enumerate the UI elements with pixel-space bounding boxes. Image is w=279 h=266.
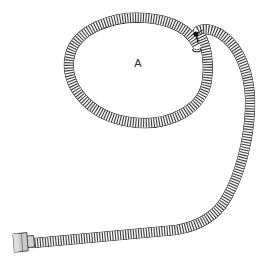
hose-diagram — [0, 0, 279, 266]
coil-label: A — [131, 57, 145, 70]
end-fitting — [13, 233, 35, 253]
crossing-dot — [193, 31, 198, 36]
hose-outline — [34, 18, 250, 243]
figure-canvas: A — [0, 0, 279, 266]
hose-edge-outer — [34, 18, 250, 243]
